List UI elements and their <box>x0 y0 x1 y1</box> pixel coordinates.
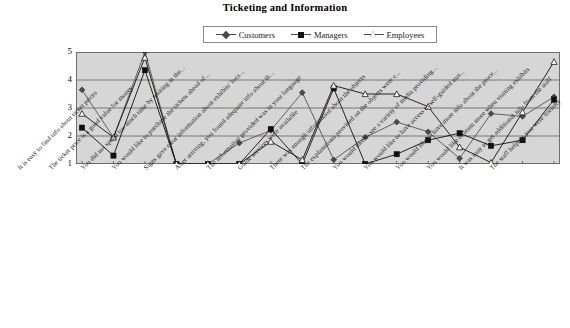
data-point-marker <box>111 153 116 158</box>
chart-title: Ticketing and Information <box>0 2 570 13</box>
legend-square-marker-icon <box>291 30 311 39</box>
legend-label-employees: Employees <box>387 30 425 40</box>
chart-legend: Customers Managers Employees <box>203 26 437 43</box>
x-axis-tick-labels: It is easy to find info about ticket pri… <box>0 164 570 328</box>
legend-item-customers: Customers <box>216 30 275 40</box>
data-point-marker <box>488 143 493 148</box>
y-axis-tick-label: 4 <box>58 74 72 84</box>
data-point-marker <box>142 68 147 73</box>
legend-diamond-marker-icon <box>216 30 236 39</box>
data-point-marker <box>551 59 557 65</box>
y-axis-tick-label: 5 <box>58 46 72 56</box>
data-point-marker <box>331 83 337 89</box>
legend-label-customers: Customers <box>239 30 275 40</box>
chart-container: Ticketing and Information Customers Mana… <box>0 0 570 328</box>
legend-triangle-marker-icon <box>364 30 384 39</box>
legend-label-managers: Managers <box>314 30 348 40</box>
legend-item-managers: Managers <box>291 30 348 40</box>
data-point-marker <box>394 152 399 157</box>
legend-item-employees: Employees <box>364 30 425 40</box>
data-point-marker <box>79 87 85 93</box>
data-point-marker <box>394 119 400 125</box>
